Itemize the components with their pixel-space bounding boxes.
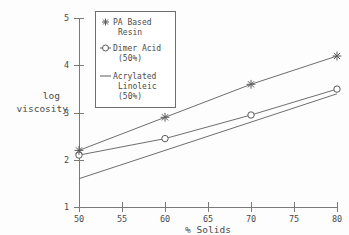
legend-marker-star-icon [102,19,109,26]
legend-label-dimer-acid-line2: (50%) [118,54,142,63]
x-tick-label-65: 65 [203,214,213,224]
x-tick-label-75: 75 [289,214,299,224]
chart-container: 5 4 3 2 1 50 55 60 65 70 75 80 % Solids … [0,0,349,235]
y-tick-label-4: 4 [64,60,69,70]
x-tick-label-50: 50 [74,214,84,224]
legend-label-pa-based-resin-line2: Resin [118,28,142,37]
legend-label-dimer-acid-line1: Dimer Acid [113,44,161,53]
y-tick-label-5: 5 [64,13,69,23]
y-tick-label-2: 2 [64,155,69,165]
legend-label-acrylated-linoleic-line2: Linoleic [118,82,157,91]
y-axis-title-line1: log [43,90,60,101]
x-tick-label-60: 60 [160,214,170,224]
x-tick-label-80: 80 [332,214,342,224]
legend-label-acrylated-linoleic-line1: Acrylated [113,72,157,81]
legend-label-pa-based-resin-line1: PA Based [113,18,152,27]
line-chart: 5 4 3 2 1 50 55 60 65 70 75 80 % Solids … [0,0,349,235]
legend-label-acrylated-linoleic-line3: (50%) [118,92,142,101]
y-tick-label-1: 1 [64,202,69,212]
x-tick-label-70: 70 [246,214,256,224]
x-axis-title: % Solids [185,224,231,235]
x-tick-label-55: 55 [117,214,127,224]
y-axis-title-line2: viscosity [17,103,69,114]
